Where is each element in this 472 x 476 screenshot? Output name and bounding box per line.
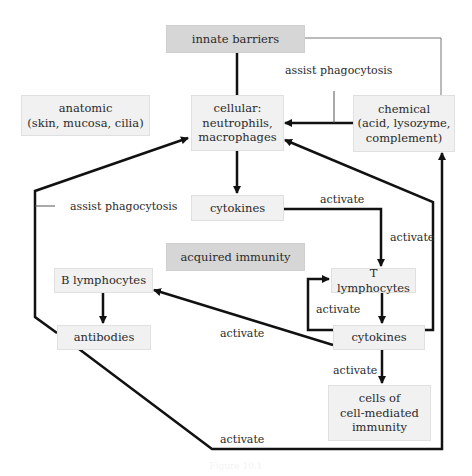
label-activate-t-loop: activate [316,303,360,316]
node-cell-mediated-immunity: cells of cell-mediated immunity [328,385,431,441]
node-cellular: cellular: neutrophils, macrophages [191,95,284,151]
label-activate-right: activate [390,231,434,244]
node-chemical: chemical (acid, lysozyme, complement) [353,95,455,152]
figure-caption: Figure 10.1 [0,461,472,471]
node-cytokines-acquired: cytokines [333,325,425,350]
label-activate-cytokines-t: activate [320,193,364,206]
node-anatomic: anatomic (skin, mucosa, cilia) [21,95,150,136]
label-assist-phagocytosis-chemical: assist phagocytosis [285,64,393,77]
node-b-lymphocytes: B lymphocytes [54,268,153,293]
node-acquired-immunity: acquired immunity [166,243,305,271]
label-activate-bottom: activate [220,433,264,446]
label-activate-b: activate [220,327,264,340]
node-cytokines-innate: cytokines [191,195,284,221]
node-antibodies: antibodies [57,325,151,350]
node-innate-barriers: innate barriers [166,25,305,53]
node-t-lymphocytes: T lymphocytes [331,268,416,293]
label-assist-phagocytosis-antibodies: assist phagocytosis [70,200,178,213]
label-activate-cell-mediated: activate [333,364,377,377]
